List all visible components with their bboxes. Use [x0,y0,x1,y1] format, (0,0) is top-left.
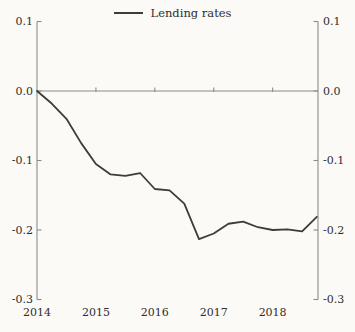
legend-line-icon [114,12,143,14]
x-tick-label: 2015 [74,306,118,319]
legend: Lending rates [0,6,345,20]
y-tick-label-right: -0.3 [323,293,344,306]
chart-svg [0,0,355,332]
x-tick-label: 2016 [133,306,177,319]
y-tick-label-right: -0.2 [323,224,344,237]
x-tick-label: 2014 [15,306,59,319]
x-tick-label: 2017 [192,306,236,319]
lending-rates-line [37,91,317,239]
legend-label: Lending rates [151,6,232,20]
y-tick-label-left: -0.1 [12,154,33,167]
y-tick-label-left: -0.2 [12,224,33,237]
y-tick-label-right: -0.1 [323,154,344,167]
y-tick-label-left: -0.3 [12,293,33,306]
chart-container: Lending rates 0.10.0-0.1-0.2-0.3 0.10.0-… [0,0,355,332]
y-tick-label-left: 0.0 [16,85,34,98]
x-tick-label: 2018 [251,306,295,319]
y-tick-label-left: 0.1 [16,15,34,28]
y-tick-label-right: 0.0 [323,85,341,98]
y-tick-label-right: 0.1 [323,15,341,28]
